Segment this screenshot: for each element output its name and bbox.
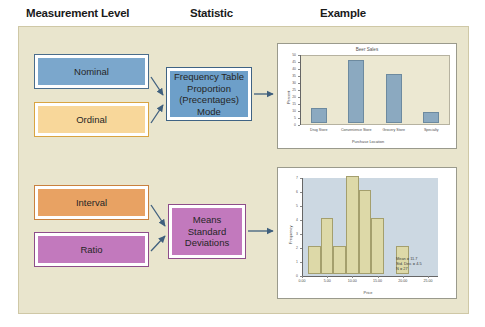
histogram-x-tick-label: 15.00 xyxy=(373,279,382,283)
bar-chart-y-tick-mark xyxy=(298,69,300,70)
bar-chart-y-tick-mark xyxy=(298,111,300,112)
bar-chart-y-tick-mark xyxy=(298,118,300,119)
bar-chart-x-tick-label: Specialty xyxy=(424,128,439,132)
statistic-line-2: Standard xyxy=(185,226,229,238)
bar-chart-y-tick-label: 25 xyxy=(292,88,296,92)
bar-chart-y-tick-mark xyxy=(298,83,300,84)
example-bar-chart: Beer Sales 05101520253035404550 Drug Sto… xyxy=(277,43,457,149)
bar-chart-y-tick-label: 45 xyxy=(292,60,296,64)
histogram-y-tick-label: 6 xyxy=(296,190,298,194)
histogram-x-tick-mark xyxy=(428,276,429,278)
histogram-y-axis-title: Frequency xyxy=(288,226,293,244)
statistic-line-1: Means xyxy=(185,214,229,226)
bar-chart-y-tick-label: 50 xyxy=(292,53,296,57)
bar-chart-y-tick-mark xyxy=(298,97,300,98)
level-box-ordinal[interactable]: Ordinal xyxy=(35,103,148,136)
level-label-interval: Interval xyxy=(76,197,107,209)
histogram-y-tick-label: 0 xyxy=(296,274,298,278)
bar-chart-y-tick-label: 40 xyxy=(292,67,296,71)
histogram-x-tick-mark xyxy=(378,276,379,278)
level-label-ratio: Ratio xyxy=(80,244,102,256)
bar-chart-y-tick-label: 0 xyxy=(294,123,296,127)
bar-chart-y-tick-mark xyxy=(298,62,300,63)
level-label-nominal: Nominal xyxy=(74,66,109,78)
histogram-x-tick-label: 5.00 xyxy=(324,279,331,283)
diagram-panel: Nominal Ordinal Interval Ratio Frequency… xyxy=(18,26,469,314)
histogram-x-tick-mark xyxy=(403,276,404,278)
statistic-line-1: Frequency Table xyxy=(172,71,246,83)
statistic-box-continuous[interactable]: Means Standard Deviations xyxy=(169,205,245,258)
bar-chart-y-tick-label: 10 xyxy=(292,109,296,113)
histogram-x-tick-mark xyxy=(352,276,353,278)
bar-chart-y-tick-mark xyxy=(298,90,300,91)
level-label-ordinal: Ordinal xyxy=(76,114,107,126)
bar-chart-y-tick-mark xyxy=(298,125,300,126)
bar-chart-bar xyxy=(311,108,327,123)
level-box-interval[interactable]: Interval xyxy=(35,186,148,219)
bar-chart-y-axis-title: Percent xyxy=(286,91,291,104)
bar-chart-y-tick-mark xyxy=(298,55,300,56)
bar-chart-y-tick-mark xyxy=(298,76,300,77)
bar-chart-y-tick-label: 35 xyxy=(292,74,296,78)
column-header-example: Example xyxy=(320,7,366,19)
histogram-x-tick-label: 0.00 xyxy=(299,279,306,283)
bar-chart-bar xyxy=(423,112,439,123)
bar-chart-x-tick-label: Drug Store xyxy=(310,128,327,132)
column-header-statistic: Statistic xyxy=(190,7,233,19)
statistic-line-3: (Precentages) Mode xyxy=(172,94,246,117)
example-histogram: 01234567 0.005.0010.0015.0020.0025.00 Pr… xyxy=(277,167,457,299)
histogram-y-tick-label: 7 xyxy=(296,176,298,180)
bar-chart-y-tick-label: 5 xyxy=(294,116,296,120)
histogram-y-tick-label: 5 xyxy=(296,204,298,208)
histogram-y-tick-label: 2 xyxy=(296,246,298,250)
histogram-x-tick-label: 20.00 xyxy=(398,279,407,283)
statistic-box-categorical[interactable]: Frequency Table Proportion (Precentages)… xyxy=(167,68,251,120)
histogram-y-tick-label: 4 xyxy=(296,218,298,222)
bar-chart-bar xyxy=(348,60,364,123)
bar-chart-y-tick-mark xyxy=(298,104,300,105)
statistic-line-3: Deviations xyxy=(185,237,229,249)
measurement-level-diagram: Measurement Level Statistic Example Nomi… xyxy=(0,0,485,327)
bar-chart-y-tick-label: 30 xyxy=(292,81,296,85)
histogram-y-tick-label: 1 xyxy=(296,260,298,264)
bar-chart-y-axis xyxy=(300,55,301,125)
level-box-ratio[interactable]: Ratio xyxy=(35,233,148,266)
bar-chart-bar xyxy=(386,74,402,123)
histogram-x-tick-label: 10.00 xyxy=(348,279,357,283)
histogram-x-axis-title: Price xyxy=(278,290,458,295)
stat-n: N = 27 xyxy=(396,266,422,271)
bar-chart-x-axis-title: Purchase Location xyxy=(278,139,458,144)
bar-chart-title: Beer Sales xyxy=(278,47,456,52)
histogram-y-tick-label: 3 xyxy=(296,232,298,236)
column-header-measurement-level: Measurement Level xyxy=(26,7,129,19)
histogram-x-tick-label: 25.00 xyxy=(423,279,432,283)
histogram-x-tick-mark xyxy=(327,276,328,278)
bar-chart-x-tick-label: Grocery Store xyxy=(383,128,405,132)
statistic-line-2: Proportion xyxy=(172,83,246,95)
histogram-x-tick-mark xyxy=(302,276,303,278)
bar-chart-y-tick-label: 15 xyxy=(292,102,296,106)
histogram-x-axis xyxy=(302,276,438,277)
level-box-nominal[interactable]: Nominal xyxy=(35,55,148,88)
bar-chart-x-tick-label: Convenience Store xyxy=(341,128,372,132)
histogram-statistics-annotation: Mean = 11.7 Std. Dev. = 4.5 N = 27 xyxy=(396,256,422,272)
bar-chart-y-tick-label: 20 xyxy=(292,95,296,99)
